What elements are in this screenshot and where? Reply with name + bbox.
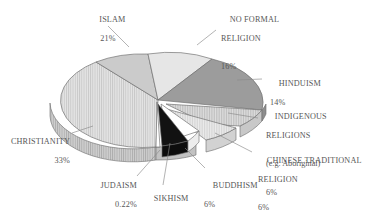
label-chinese-traditional-religion: CHINESE TRADITIONAL RELIGION 6% xyxy=(258,147,368,212)
label-buddhism-pct: 6% xyxy=(204,200,274,209)
label-christianity: CHRISTIANITY 33% xyxy=(0,128,70,184)
label-no-formal-religion-line1: NO FORMAL xyxy=(230,15,279,24)
label-hinduism-name: HINDUISM xyxy=(279,79,321,88)
label-no-formal-religion-line2: RELIGION xyxy=(221,34,331,43)
label-indigenous-religions-line1: INDIGENOUS xyxy=(275,112,327,121)
label-indigenous-religions-line2: RELIGIONS xyxy=(266,131,368,140)
label-buddhism: BUDDHISM 6% xyxy=(204,172,274,212)
label-judaism-name: JUDAISM xyxy=(100,181,137,190)
label-chinese-traditional-religion-line1: CHINESE TRADITIONAL xyxy=(267,156,362,165)
pie-chart-figure: ISLAM 21% NO FORMAL RELIGION 16% HINDUIS… xyxy=(0,0,368,212)
label-judaism-pct: 0.22% xyxy=(66,200,137,209)
leader-no-formal-religion xyxy=(197,30,216,45)
label-buddhism-name: BUDDHISM xyxy=(213,181,258,190)
label-islam: ISLAM 21% xyxy=(58,6,158,62)
label-islam-name: ISLAM xyxy=(99,15,125,24)
label-sikhism: SIKHISM 0.36% xyxy=(145,185,207,212)
label-sikhism-name: SIKHISM xyxy=(154,194,189,203)
label-chinese-traditional-religion-line2: RELIGION xyxy=(258,175,368,184)
label-christianity-pct: 33% xyxy=(0,156,70,165)
label-chinese-traditional-religion-pct: 6% xyxy=(258,203,368,212)
label-christianity-name: CHRISTIANITY xyxy=(11,137,70,146)
label-judaism: JUDAISM 0.22% xyxy=(66,172,137,212)
label-islam-pct: 21% xyxy=(58,34,158,43)
